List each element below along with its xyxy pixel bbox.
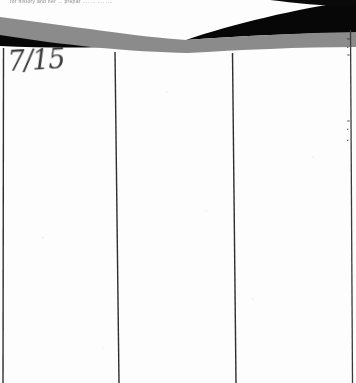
right-edge-fragment-a: = <box>347 36 356 42</box>
ledger-column-1 <box>4 58 115 383</box>
right-edge-fragment-b: ▪ <box>347 44 356 50</box>
ledger-column-2 <box>119 58 233 383</box>
right-edge-fragment-c: = <box>347 52 356 58</box>
top-clipped-text: for history and ner ... prepar .... ... … <box>10 0 310 5</box>
scanned-page: for history and ner ... prepar .... ... … <box>0 0 356 383</box>
right-edge-fragment-d: = <box>347 118 356 124</box>
handwritten-date: 7/15 <box>7 43 65 77</box>
right-edge-fragment-e: ▪ <box>347 126 356 132</box>
right-edge-fragment-f: ▪ <box>347 137 356 143</box>
ledger-column-3 <box>236 58 351 383</box>
